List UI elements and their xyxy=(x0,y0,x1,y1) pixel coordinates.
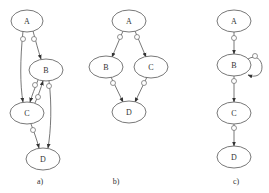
node-c-C: C xyxy=(217,102,251,124)
svg-text:B: B xyxy=(231,61,236,70)
node-a-C: C xyxy=(10,102,44,124)
edge-marker-icon xyxy=(33,83,38,88)
node-b-A: A xyxy=(112,10,146,32)
edge-a-A-B xyxy=(33,31,41,59)
node-b-C: C xyxy=(134,56,168,78)
edge-marker-icon xyxy=(111,81,116,86)
svg-text:A: A xyxy=(126,17,132,26)
node-b-B: B xyxy=(89,56,123,78)
panel-b: A B C D b) xyxy=(89,10,168,186)
node-b-D: D xyxy=(112,101,146,123)
node-a-D: D xyxy=(26,148,60,170)
node-c-B: B xyxy=(217,54,251,76)
svg-text:D: D xyxy=(126,108,132,117)
node-a-A: A xyxy=(11,10,43,32)
edge-marker-icon xyxy=(232,126,237,131)
svg-text:A: A xyxy=(231,17,237,26)
svg-text:B: B xyxy=(43,66,48,75)
edge-marker-icon xyxy=(142,81,147,86)
edge-marker-icon xyxy=(32,37,37,42)
svg-text:C: C xyxy=(24,109,29,118)
panel-c: A B C D c) xyxy=(217,10,262,186)
svg-text:A: A xyxy=(24,17,30,26)
edge-marker-icon xyxy=(232,79,237,84)
svg-text:C: C xyxy=(231,109,236,118)
edge-marker-icon xyxy=(232,36,237,41)
node-c-D: D xyxy=(217,146,251,168)
edge-marker-icon xyxy=(253,54,258,59)
panel-a: A B C D a) xyxy=(10,10,63,186)
edge-marker-icon xyxy=(47,84,52,89)
node-a-B: B xyxy=(29,59,63,81)
edge-marker-icon xyxy=(36,95,41,100)
svg-text:B: B xyxy=(103,63,108,72)
edge-marker-icon xyxy=(135,35,140,40)
caption-c: c) xyxy=(233,177,240,186)
svg-text:D: D xyxy=(231,153,237,162)
edge-a-B-D xyxy=(48,81,51,148)
edge-marker-icon xyxy=(21,37,26,42)
edge-marker-icon xyxy=(118,35,123,40)
caption-a: a) xyxy=(37,177,44,186)
svg-text:D: D xyxy=(40,155,46,164)
caption-b: b) xyxy=(113,177,120,186)
node-c-A: A xyxy=(217,10,251,32)
graph-figure: A B C D a) A B xyxy=(0,0,269,193)
edge-marker-icon xyxy=(31,128,36,133)
svg-text:C: C xyxy=(148,63,153,72)
